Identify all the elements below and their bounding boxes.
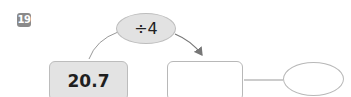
operation-ellipse: ÷4 [116,13,176,44]
start-value-label: 20.7 [68,71,110,91]
start-value-box: 20.7 [49,61,128,97]
answer-box[interactable] [167,61,243,97]
left-curve-line [89,32,118,59]
operation-label: ÷4 [134,19,158,38]
answer-ellipse[interactable] [283,62,344,96]
arrow-curve-line [175,34,202,55]
